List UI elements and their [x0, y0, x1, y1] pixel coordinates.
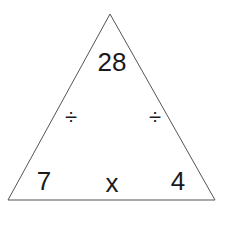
bottom-left-number: 7: [37, 168, 51, 194]
right-divide-sign: ÷: [149, 106, 161, 128]
bottom-right-number: 4: [171, 168, 185, 194]
left-divide-sign: ÷: [65, 106, 77, 128]
top-number: 28: [98, 49, 127, 75]
multiply-sign: x: [106, 170, 119, 196]
